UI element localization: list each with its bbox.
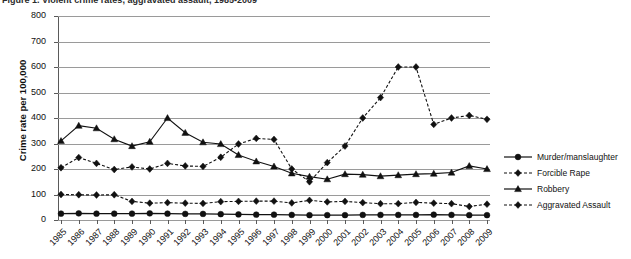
x-axis-tick-labels: 1985198619871988198919901991199219931994… <box>0 0 631 259</box>
legend-marker-triangle-icon <box>503 182 533 196</box>
legend-marker-circle-icon <box>503 150 533 164</box>
legend-label: Murder/manslaughter <box>537 152 618 162</box>
legend-label: Robbery <box>537 184 569 194</box>
legend-label: Aggravated Assault <box>537 200 610 210</box>
legend-item-forcible-rape[interactable]: Forcible Rape <box>503 165 631 181</box>
legend-item-murder-manslaughter[interactable]: Murder/manslaughter <box>503 149 631 165</box>
legend-marker-diamond-icon <box>503 198 533 212</box>
legend-label: Forcible Rape <box>537 168 590 178</box>
chart-legend: Murder/manslaughterForcible RapeRobberyA… <box>503 149 631 213</box>
crime-rate-line-chart-figure: Figure 1. Violent crime rates, aggravate… <box>0 0 631 259</box>
legend-marker-diamond-icon <box>503 166 533 180</box>
legend-item-aggravated-assault[interactable]: Aggravated Assault <box>503 197 631 213</box>
legend-item-robbery[interactable]: Robbery <box>503 181 631 197</box>
